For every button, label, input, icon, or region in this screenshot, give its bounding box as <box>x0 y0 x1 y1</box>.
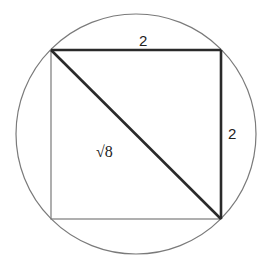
diagonal-bold <box>51 50 221 219</box>
inscribed-square-diagram: 2 2 √8 <box>0 0 270 264</box>
top-side-label: 2 <box>139 32 147 49</box>
right-side-label: 2 <box>228 125 236 142</box>
diagonal-label: √8 <box>96 143 113 160</box>
